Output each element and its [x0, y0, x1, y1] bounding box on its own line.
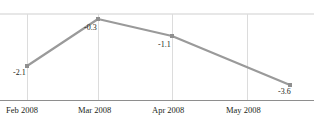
data-point-marker: [170, 34, 174, 38]
data-label: -2.1: [13, 68, 26, 77]
data-label: -0.3: [84, 23, 97, 32]
data-series-line: [27, 19, 290, 85]
x-tick-label-may: May 2008: [226, 105, 261, 115]
plot-svg: [0, 0, 316, 101]
x-tick-label-feb: Feb 2008: [6, 105, 38, 115]
data-label: -3.6: [278, 87, 291, 96]
plot-area: -2.1 -0.3 -1.1 -3.6: [0, 0, 316, 101]
data-point-marker: [96, 17, 100, 21]
data-label: -1.1: [158, 40, 171, 49]
line-chart-figure: rcent change, year-over-year -2.1 -0.3 -…: [0, 0, 316, 122]
x-tick-label-mar: Mar 2008: [78, 105, 111, 115]
x-tick-label-apr: Apr 2008: [152, 105, 184, 115]
